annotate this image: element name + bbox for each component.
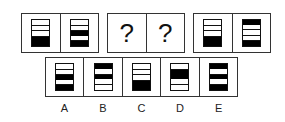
option-label-a[interactable]: A — [45, 102, 84, 114]
black-stripe — [71, 41, 88, 46]
unknown-cell-2: ? — [146, 14, 185, 52]
question-mark: ? — [158, 20, 172, 46]
stripe-pattern-icon — [70, 19, 89, 47]
white-stripe — [95, 85, 112, 90]
black-stripe — [56, 85, 73, 90]
black-stripe — [32, 37, 49, 46]
top-group-1-cell-2 — [60, 14, 99, 52]
question-mark: ? — [120, 20, 134, 46]
stripe-pattern-icon — [132, 63, 151, 91]
top-group-2: ? ? — [107, 13, 185, 53]
top-group-3-cell-2 — [232, 14, 271, 52]
option-label-e[interactable]: E — [199, 102, 238, 114]
option-d[interactable] — [160, 58, 198, 96]
black-stripe — [243, 41, 260, 46]
stripe-pattern-icon — [203, 19, 222, 47]
top-group-1-cell-1 — [22, 14, 60, 52]
option-b[interactable] — [83, 58, 121, 96]
stripe-pattern-icon — [94, 63, 113, 91]
stripe-pattern-icon — [55, 63, 74, 91]
option-label-b[interactable]: B — [84, 102, 123, 114]
option-labels: A B C D E — [45, 102, 238, 114]
unknown-cell-1: ? — [108, 14, 146, 52]
options-strip — [45, 57, 238, 97]
top-group-3 — [193, 13, 271, 53]
black-stripe — [171, 70, 188, 80]
stripe-pattern-icon — [31, 19, 50, 47]
top-group-3-cell-1 — [194, 14, 232, 52]
black-stripe — [210, 85, 227, 90]
black-stripe — [133, 81, 150, 90]
top-group-1 — [21, 13, 99, 53]
stripe-pattern-icon — [242, 19, 261, 47]
white-stripe — [171, 85, 188, 90]
stripe-pattern-icon — [209, 63, 228, 91]
option-e[interactable] — [199, 58, 237, 96]
stripe-pattern-icon — [170, 63, 189, 91]
option-a[interactable] — [46, 58, 83, 96]
option-label-d[interactable]: D — [161, 102, 200, 114]
option-label-c[interactable]: C — [122, 102, 161, 114]
black-stripe — [204, 37, 221, 46]
option-c[interactable] — [122, 58, 160, 96]
